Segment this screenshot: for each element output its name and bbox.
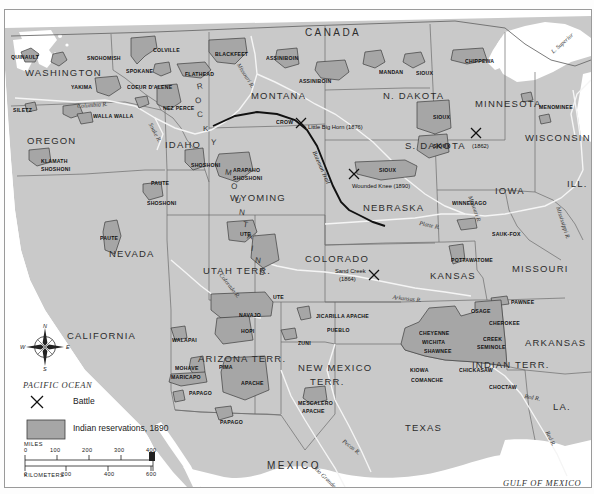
legend-reservation-swatch xyxy=(27,420,65,439)
rockies-letter: O xyxy=(230,182,237,192)
rockies-letter: N xyxy=(238,208,245,218)
map-canvas[interactable]: CANADAMEXICOPACIFIC OCEANGULF OF MEXICOW… xyxy=(4,9,592,488)
rockies-letter: O xyxy=(194,96,201,106)
rockies-letter: K xyxy=(203,124,208,133)
map-page: CANADAMEXICOPACIFIC OCEANGULF OF MEXICOW… xyxy=(0,0,594,494)
rockies-letter: U xyxy=(234,196,241,206)
map-geography xyxy=(5,10,591,487)
rockies-letter: Y xyxy=(211,138,217,147)
rockies-letter: M xyxy=(224,168,232,178)
rockies-letter: C xyxy=(197,110,203,119)
rockies-letter: N xyxy=(254,256,261,266)
rockies-letter: R xyxy=(196,81,204,91)
